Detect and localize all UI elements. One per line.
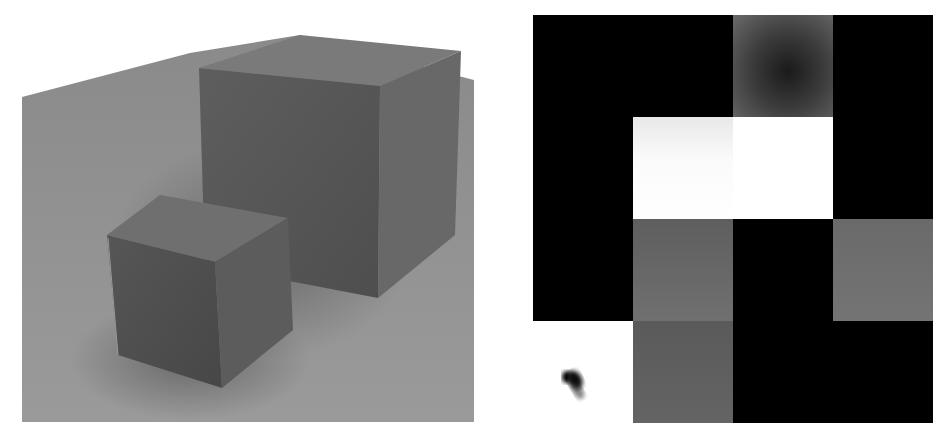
grid-tile (733, 219, 833, 321)
grid-tile (833, 117, 933, 219)
grid-tile (733, 117, 833, 219)
grid-tile (533, 15, 633, 117)
grid-tile (733, 321, 833, 423)
grid-tile (833, 15, 933, 117)
grid-tile (533, 219, 633, 321)
grid-tile (633, 219, 733, 321)
grid-tile (733, 15, 833, 117)
grid-tile (633, 15, 733, 117)
grid-tile (633, 321, 733, 423)
grid-tile (833, 219, 933, 321)
cube-scene-render (0, 0, 474, 439)
dark-blob-mark (558, 364, 588, 406)
cube-scene-svg (0, 0, 474, 439)
grid-tile (533, 117, 633, 219)
grid-tile (833, 321, 933, 423)
grid-tile (633, 117, 733, 219)
tile-grid (533, 15, 933, 424)
